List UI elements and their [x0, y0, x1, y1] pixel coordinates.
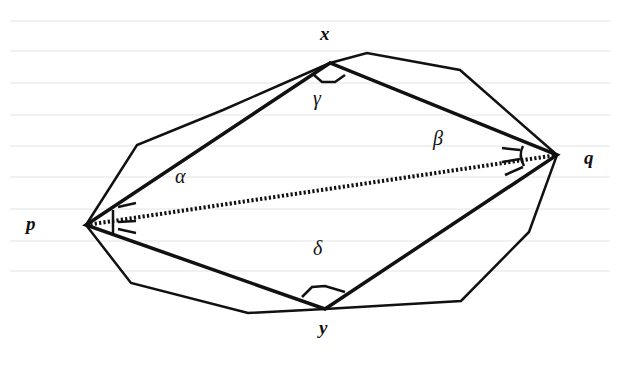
angle-label-delta: δ: [313, 238, 322, 258]
angle-label-alpha: α: [175, 166, 186, 186]
angle-label-gamma: γ: [313, 88, 321, 108]
inner-quadrilateral: [86, 63, 557, 309]
diagonal-pq: [86, 155, 557, 225]
angle-mark-gamma: [314, 75, 345, 82]
diagram-canvas: [0, 0, 620, 366]
angle-label-beta: β: [433, 128, 443, 148]
angle-mark-delta: [302, 286, 345, 297]
vertex-label-q: q: [584, 148, 594, 167]
vertex-label-x: x: [320, 24, 330, 43]
vertex-label-y: y: [319, 318, 327, 337]
angle-mark-q: [502, 146, 524, 175]
vertex-label-p: p: [26, 214, 36, 233]
outer-polygon: [86, 53, 557, 313]
